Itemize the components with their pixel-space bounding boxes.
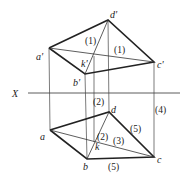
upper-view: d' a' c' b' k' (1) (1)	[36, 9, 164, 88]
label-b: b	[83, 161, 88, 172]
edge-b'd'	[85, 20, 108, 74]
annotation-1b: (1)	[114, 45, 125, 56]
label-c-prime: c'	[157, 59, 164, 70]
label-d-prime: d'	[110, 9, 118, 20]
label-a: a	[40, 131, 45, 142]
upper-outline	[49, 20, 154, 74]
lower-view: d a c b k (2) (2) (3) (4) (5) (5)	[40, 97, 166, 173]
label-a-prime: a'	[36, 51, 44, 62]
annotation-2a: (2)	[93, 97, 104, 108]
annotation-1a: (1)	[85, 36, 96, 47]
annotation-5b: (5)	[108, 162, 119, 173]
label-k-prime: k'	[81, 58, 88, 69]
annotation-2b: (2)	[97, 132, 108, 143]
label-d: d	[111, 104, 117, 115]
annotation-4: (4)	[155, 105, 166, 116]
annotation-3: (3)	[113, 136, 124, 147]
label-b-prime: b'	[73, 77, 81, 88]
x-axis-label: X	[11, 88, 19, 99]
tetrahedron-projection-diagram: X d' a' c' b' k' (1) (1) d a c b k (2) (…	[0, 0, 190, 180]
annotation-5a: (5)	[130, 124, 141, 135]
label-c: c	[157, 154, 162, 165]
label-k: k	[95, 141, 100, 152]
